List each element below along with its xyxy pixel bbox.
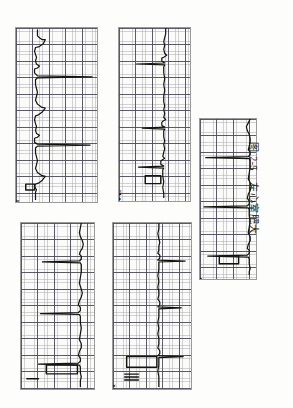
lead-label-v5: V5 [199, 277, 203, 280]
lead-label-v1: V1 [15, 199, 20, 203]
lead-label-avl: aVL [118, 190, 122, 202]
ecg-panel-iii: III [112, 222, 192, 390]
ecg-trace-v1 [16, 28, 97, 200]
figure-page: V1 aVL V5 [0, 0, 293, 408]
figure-caption: 图 2-5 左心室肥大 [247, 142, 262, 262]
ecg-trace-avl [119, 28, 190, 198]
ecg-trace-i [21, 223, 94, 387]
ecg-trace-iii [113, 223, 191, 387]
ecg-panel-avl: aVL [118, 27, 191, 202]
lead-label-iii: III [112, 384, 116, 390]
ecg-panel-i: I [20, 222, 95, 390]
caption-title: 左心室肥大 [248, 182, 259, 235]
ecg-panel-v1: V1 [15, 27, 98, 203]
caption-number: 2-5 [248, 156, 259, 171]
caption-prefix: 图 [248, 142, 259, 153]
